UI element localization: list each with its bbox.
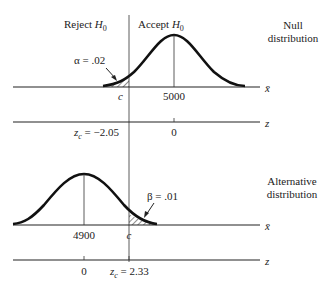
alpha-arrow-head — [111, 75, 117, 81]
alt-z-axis-label: z — [265, 256, 269, 267]
null-title-line1: Null — [283, 20, 303, 31]
null-title-line2: distribution — [268, 33, 319, 44]
alt-curve — [13, 174, 157, 224]
alt-z0-label: 0 — [81, 266, 87, 277]
null-xbar-axis-label: x̄ — [265, 83, 270, 94]
null-z-axis-label: z — [265, 118, 269, 129]
null-mean-label: 5000 — [163, 91, 185, 102]
alpha-label: α = .02 — [74, 55, 105, 66]
alt-zc-label: zc = 2.33 — [110, 266, 149, 280]
alt-mean-label: 4900 — [73, 230, 95, 241]
reject-h0-label: Reject H0 — [64, 19, 107, 33]
alt-title-line2: distribution — [267, 189, 318, 200]
alt-xbar-axis-label: x̄ — [265, 221, 270, 232]
alt-title-line1: Alternative — [267, 176, 316, 187]
null-zc-label: zc = −2.05 — [74, 127, 119, 141]
null-z0-label: 0 — [171, 127, 177, 138]
alt-c-label: c — [127, 230, 132, 241]
null-c-label: c — [118, 91, 123, 102]
accept-h0-label: Accept H0 — [138, 19, 184, 33]
beta-label: β = .01 — [147, 191, 178, 202]
